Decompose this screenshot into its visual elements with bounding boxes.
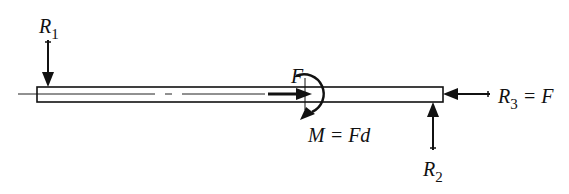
r3-equals-f: = F: [518, 85, 554, 107]
r1-subscript: 1: [51, 26, 59, 42]
r2-arrow: [427, 102, 439, 150]
r3-subscript: 3: [510, 96, 518, 112]
r1-label: R1: [39, 16, 59, 36]
r3-label: R3 = F: [498, 86, 553, 106]
force-label: F: [291, 66, 303, 86]
moment-label: M = Fd: [308, 125, 370, 145]
moment-text: M = Fd: [308, 124, 370, 146]
r3-arrow: [443, 88, 490, 100]
r3-symbol: R: [498, 85, 510, 107]
r2-symbol: R: [423, 158, 435, 180]
r2-label: R2: [423, 159, 443, 179]
r1-symbol: R: [39, 15, 51, 37]
bar-diagram: [0, 0, 569, 194]
force-symbol: F: [291, 65, 303, 87]
r1-arrow: [42, 40, 54, 87]
r2-subscript: 2: [435, 169, 443, 185]
